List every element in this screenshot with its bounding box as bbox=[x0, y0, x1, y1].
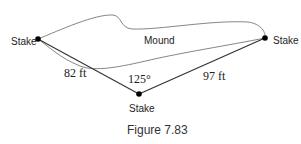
segment-left-to-bottom bbox=[38, 39, 139, 94]
length-label-97: 97 ft bbox=[203, 69, 226, 83]
stake-label-right: Stake bbox=[273, 35, 299, 46]
stake-point-bottom bbox=[136, 91, 142, 97]
figure-caption: Figure 7.83 bbox=[127, 123, 188, 137]
length-label-82: 82 ft bbox=[64, 66, 87, 80]
stake-label-bottom: Stake bbox=[129, 103, 155, 114]
stake-point-right bbox=[262, 35, 268, 41]
stake-label-left: Stake bbox=[11, 36, 37, 47]
angle-label: 125° bbox=[128, 72, 151, 86]
segment-bottom-to-right bbox=[139, 38, 265, 94]
stake-diagram: Stake Stake Stake Mound 82 ft 125° 97 ft… bbox=[0, 0, 301, 144]
mound-label: Mound bbox=[144, 35, 175, 46]
